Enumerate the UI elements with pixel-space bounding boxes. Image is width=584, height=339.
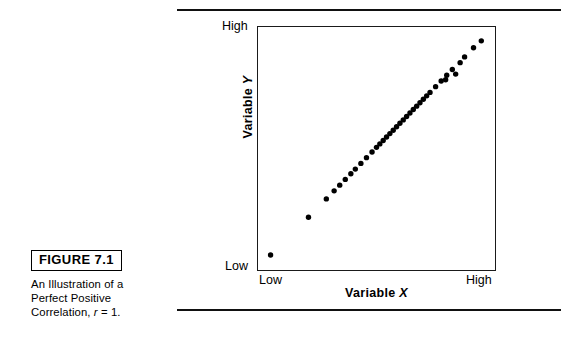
scatter-point (453, 71, 458, 76)
caption-line-3-prefix: Correlation, (31, 306, 94, 318)
page-rule-bottom (177, 309, 561, 311)
scatter-point (358, 161, 363, 166)
y-axis-tick-low: Low (225, 260, 248, 273)
scatter-point (337, 182, 342, 187)
scatter-point (450, 67, 455, 72)
scatter-point (369, 149, 374, 154)
y-axis-title-prefix: Variable (241, 84, 255, 138)
y-axis-tick-high: High (222, 20, 248, 33)
x-axis-tick-low: Low (259, 274, 282, 287)
x-axis-title-prefix: Variable (345, 286, 399, 300)
figure-number-tag: FIGURE 7.1 (31, 250, 122, 271)
scatter-point (438, 78, 443, 83)
scatter-point (424, 93, 429, 98)
scatter-point (364, 155, 369, 160)
scatter-points-layer (257, 26, 496, 271)
scatter-point (417, 100, 422, 105)
scatter-point (414, 103, 419, 108)
scatter-point (401, 117, 406, 122)
scatter-point (353, 166, 358, 171)
scatter-point (404, 114, 409, 119)
scatter-point (374, 145, 379, 150)
scatter-point (394, 124, 399, 129)
scatter-point (462, 54, 467, 59)
scatter-point (457, 60, 462, 65)
scatter-point (387, 131, 392, 136)
scatter-point (384, 134, 389, 139)
scatter-point (377, 141, 382, 146)
x-axis-title: Variable X (257, 286, 496, 300)
y-axis-title-variable: Y (241, 76, 255, 85)
x-axis-tick-high: High (466, 274, 492, 287)
scatter-point (397, 121, 402, 126)
scatter-point (331, 188, 336, 193)
scatter-point (268, 252, 273, 257)
scatter-point (380, 138, 385, 143)
scatter-point (433, 84, 438, 89)
scatter-point (479, 38, 484, 43)
caption-line-1: An Illustration of a (31, 278, 123, 290)
scatter-point (444, 73, 449, 78)
figure-caption-block: FIGURE 7.1 An Illustration of a Perfect … (31, 250, 151, 320)
scatter-point (427, 90, 432, 95)
scatter-point (411, 107, 416, 112)
scatter-point (443, 77, 448, 82)
scatter-point (343, 177, 348, 182)
caption-line-3-suffix: = 1. (98, 306, 121, 318)
plot-frame (257, 26, 496, 271)
scatter-point (407, 110, 412, 115)
y-axis-title: Variable Y (241, 57, 255, 157)
x-axis-title-variable: X (399, 286, 408, 300)
scatter-point (391, 127, 396, 132)
caption-line-2: Perfect Positive (31, 292, 111, 304)
scatter-point (348, 171, 353, 176)
page-rule-top (177, 9, 561, 11)
figure-caption-text: An Illustration of a Perfect Positive Co… (31, 277, 149, 320)
scatter-point (421, 97, 426, 102)
scatter-point (471, 45, 476, 50)
scatter-point (324, 196, 329, 201)
scatter-point (306, 215, 311, 220)
